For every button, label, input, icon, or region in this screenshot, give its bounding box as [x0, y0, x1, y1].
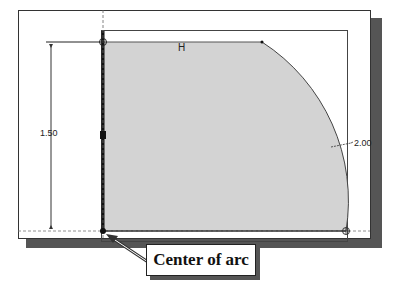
horizontal-constraint-label: H: [178, 42, 185, 53]
endpoint-arc-start[interactable]: [261, 41, 264, 44]
vertical-dimension-label[interactable]: 1.50: [40, 128, 58, 138]
vertical-constraint-icon: [100, 131, 106, 139]
callout-center-of-arc: Center of arc: [146, 244, 256, 276]
arc-center-point[interactable]: [100, 228, 106, 234]
callout-text: Center of arc: [153, 250, 249, 270]
radius-dimension-label[interactable]: 2.00: [354, 138, 372, 148]
